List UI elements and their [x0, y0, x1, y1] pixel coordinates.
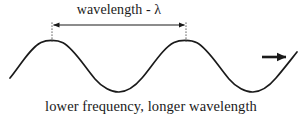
- wavelength-diagram: wavelength - λ lower frequency, longer w…: [0, 0, 302, 119]
- wavelength-label: wavelength - λ: [0, 1, 238, 18]
- sine-wave-path: [10, 40, 297, 92]
- diagram-caption: lower frequency, longer wavelength: [0, 97, 302, 115]
